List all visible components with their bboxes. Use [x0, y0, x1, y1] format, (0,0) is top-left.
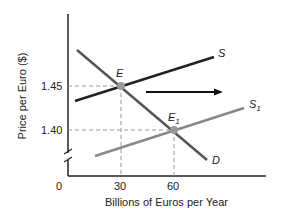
x-tick-60: 60 [167, 180, 179, 192]
supply-demand-chart: S S1 D E E1 1.45 1.40 0 30 60 Billions o… [0, 0, 284, 217]
label-s: S [218, 47, 225, 59]
equilibrium-point-e [117, 82, 125, 90]
supply-curve-s [75, 57, 214, 101]
x-tick-30: 30 [114, 180, 126, 192]
y-tick-140: 1.40 [41, 124, 62, 136]
y-tick-145: 1.45 [41, 80, 62, 92]
label-e: E [116, 67, 123, 79]
chart-plot [0, 0, 284, 217]
y-axis-label: Price per Euro ($) [16, 46, 28, 146]
x-axis-label: Billions of Euros per Year [105, 196, 228, 208]
x-tick-0: 0 [56, 180, 62, 192]
label-s1: S1 [249, 98, 261, 113]
label-d: D [212, 154, 220, 166]
label-e1: E1 [168, 111, 180, 126]
equilibrium-point-e1 [170, 126, 178, 134]
